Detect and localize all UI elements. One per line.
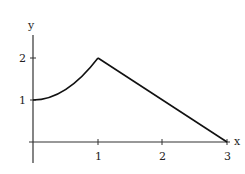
y-tick-label-2: 2 bbox=[19, 52, 26, 65]
y-axis-label: y bbox=[27, 19, 35, 32]
x-axis-label: x bbox=[234, 135, 241, 148]
function-graph: y x 2 1 1 2 3 bbox=[0, 0, 245, 174]
x-tick-label-3: 3 bbox=[224, 150, 231, 163]
x-tick-label-1: 1 bbox=[95, 150, 102, 163]
y-tick-label-1: 1 bbox=[19, 94, 26, 107]
curve-segment bbox=[33, 58, 98, 100]
x-tick-label-2: 2 bbox=[159, 150, 166, 163]
linear-segment bbox=[98, 58, 227, 142]
